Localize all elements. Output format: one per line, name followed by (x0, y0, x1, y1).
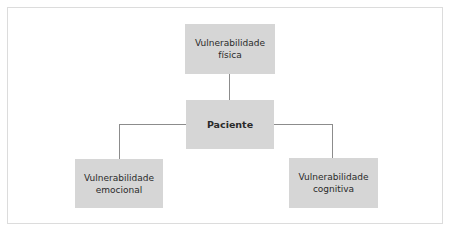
node-label: Paciente (207, 119, 253, 131)
node-vulnerabilidade-emocional: Vulnerabilidade emocional (75, 159, 163, 208)
node-vulnerabilidade-cognitiva: Vulnerabilidade cognitiva (289, 158, 378, 208)
connector-right-vertical (332, 124, 333, 158)
node-label: Vulnerabilidade física (195, 37, 265, 61)
node-label: Vulnerabilidade cognitiva (299, 171, 369, 195)
connector-left-horizontal (119, 124, 186, 125)
node-vulnerabilidade-fisica: Vulnerabilidade física (185, 24, 275, 74)
node-paciente: Paciente (186, 100, 274, 149)
connector-left-vertical (119, 124, 120, 159)
connector-right-horizontal (274, 124, 333, 125)
connector-top (229, 74, 230, 100)
node-label: Vulnerabilidade emocional (84, 172, 154, 196)
